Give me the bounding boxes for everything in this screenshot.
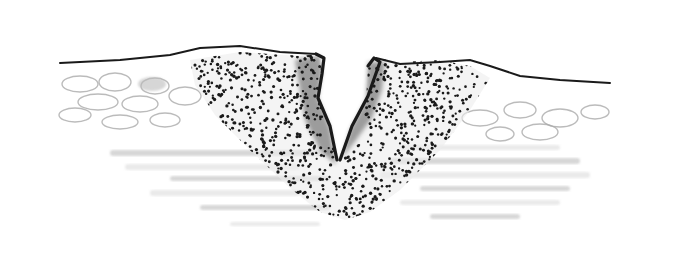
stipple-dot [249,135,251,137]
stipple-dot [411,138,414,141]
stipple-dot [313,147,315,149]
stipple-dot [465,98,468,101]
stipple-dot [399,142,401,144]
stipple-dot [479,141,482,144]
stipple-dot [477,140,480,143]
stipple-dot [417,216,419,218]
stipple-dot [425,110,428,113]
stipple-dot [224,62,226,64]
stipple-dot [241,73,244,76]
stipple-dot [226,68,229,71]
stipple-dot [395,217,398,220]
stipple-dot [365,170,367,172]
stipple-dot [483,150,486,153]
stipple-dot [197,216,200,219]
stipple-dot [303,152,306,155]
stipple-dot [322,202,325,205]
stipple-dot [210,118,212,120]
stipple-dot [296,93,299,96]
stipple-dot [452,87,454,89]
stipple-dot [405,170,408,173]
stipple-dot [187,64,190,67]
stipple-dot [191,221,194,224]
stipple-dot [216,63,219,66]
stipple-dot [257,66,260,69]
stipple-dot [332,213,334,215]
stipple-dot [487,81,489,83]
cell-outline [62,76,98,92]
stipple-dot [254,187,257,190]
stipple-dot [249,116,251,118]
stipple-dot [270,151,273,154]
stipple-dot [443,67,446,70]
stipple-dot [258,159,260,161]
stipple-dot [220,173,223,176]
stipple-dot [454,167,456,169]
stipple-dot [191,123,194,126]
stipple-dot [379,149,382,152]
stipple-dot [298,201,301,204]
stipple-dot [484,82,487,85]
stipple-dot [305,202,308,205]
stipple-dot [399,106,401,108]
stipple-dot [366,166,368,168]
stipple-dot [438,67,441,70]
stipple-dot [309,186,312,189]
stipple-dot [368,220,371,223]
stipple-dot [390,77,393,80]
stipple-dot [433,207,436,210]
stipple-dot [286,76,289,79]
stipple-dot [408,209,411,212]
stipple-dot [481,134,484,137]
stipple-dot [413,144,416,147]
stipple-dot [289,164,292,167]
stipple-dot [389,87,392,90]
stipple-dot [207,121,210,124]
stipple-dot [420,59,422,61]
stipple-dot [196,93,199,96]
stipple-dot [453,180,455,182]
stipple-dot [231,184,234,187]
stipple-dot [209,119,211,121]
stipple-dot [220,172,223,175]
stipple-dot [267,212,270,215]
stipple-dot [201,59,204,62]
stipple-dot [205,109,208,112]
stipple-dot [281,218,283,220]
stipple-dot [299,107,302,110]
stipple-dot [195,125,197,127]
stipple-dot [242,125,245,128]
stipple-dot [272,85,275,88]
stipple-dot [239,51,242,54]
stipple-dot [316,158,318,160]
stipple-dot [264,74,266,76]
stipple-dot [445,156,447,158]
stipple-dot [222,216,225,219]
stipple-dot [451,194,454,197]
stipple-dot [429,55,431,57]
stipple-dot [448,136,451,139]
stipple-dot [430,73,433,76]
stipple-dot [224,143,227,146]
stipple-dot [409,111,412,114]
stipple-dot [184,71,186,73]
stipple-dot [196,68,198,70]
stipple-dot [436,107,439,110]
stipple-dot [291,159,294,162]
stipple-dot [235,159,237,161]
stipple-dot [346,220,349,223]
stipple-dot [489,220,491,222]
stipple-dot [407,181,410,184]
stipple-dot [453,54,456,57]
stipple-dot [257,94,260,97]
tissue-wash [420,186,570,191]
stipple-dot [310,77,313,80]
stipple-dot [231,198,234,201]
stipple-dot [422,67,425,70]
stipple-dot [400,194,402,196]
stipple-dot [429,183,432,186]
stipple-dot [406,70,409,73]
stipple-dot [291,84,294,87]
stipple-dot [225,104,228,107]
stipple-dot [229,211,232,214]
